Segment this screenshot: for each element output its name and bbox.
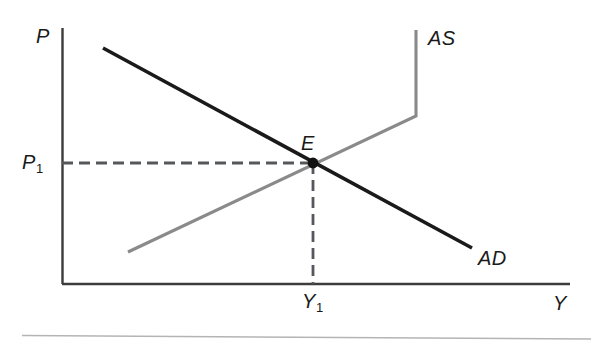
ad-curve-label: AD <box>478 248 506 268</box>
price-equilibrium-subscript: 1 <box>36 161 43 176</box>
equilibrium-point-marker <box>308 158 319 169</box>
price-equilibrium-label: P1 <box>22 152 43 172</box>
y-axis-label-price: P <box>36 26 50 46</box>
output-equilibrium-base: Y <box>302 290 316 312</box>
figure-canvas: P Y P1 Y1 AS AD E <box>0 0 606 351</box>
footer-rule <box>22 336 591 340</box>
price-equilibrium-base: P <box>22 151 36 173</box>
output-equilibrium-subscript: 1 <box>316 300 323 315</box>
x-axis-label-output: Y <box>553 293 567 313</box>
as-curve-label: AS <box>428 28 455 48</box>
equilibrium-point-label: E <box>301 133 314 153</box>
output-equilibrium-label: Y1 <box>302 291 323 311</box>
